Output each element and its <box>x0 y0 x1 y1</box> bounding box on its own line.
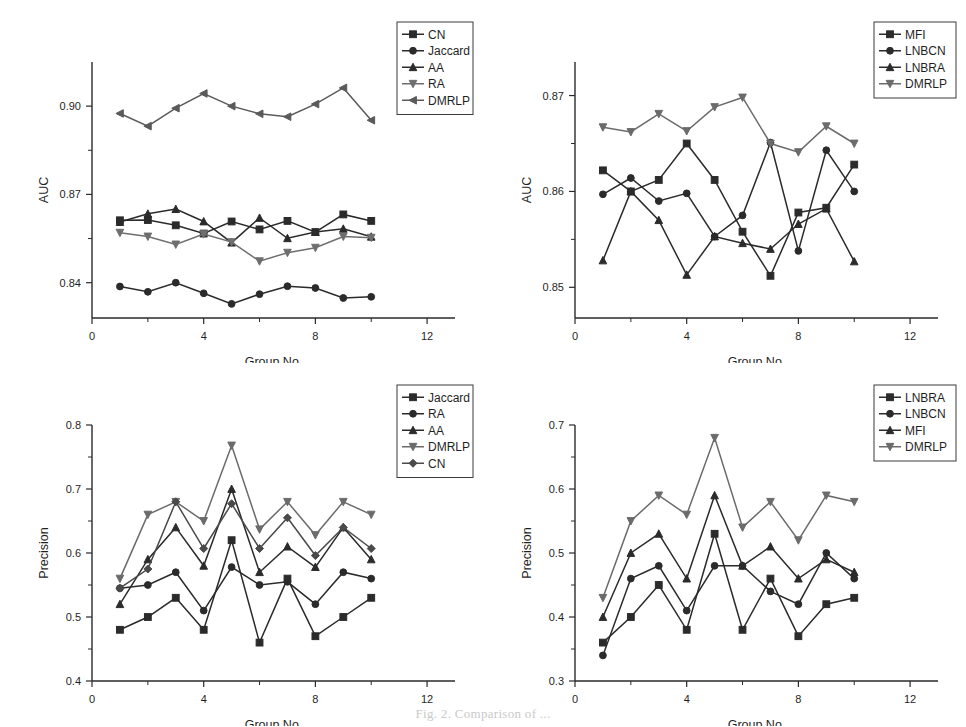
axes-group: 048120.840.870.90 <box>60 62 455 342</box>
data-point <box>256 258 264 265</box>
series-line <box>603 143 854 251</box>
data-point <box>340 614 347 621</box>
x-tick-label: 12 <box>904 693 916 705</box>
y-tick-label: 0.4 <box>549 611 564 623</box>
legend-label: CN <box>428 28 445 42</box>
data-point <box>683 607 690 614</box>
data-point <box>283 113 290 121</box>
data-point <box>655 562 662 569</box>
data-point <box>795 601 802 608</box>
x-tick-label: 4 <box>201 693 207 705</box>
y-tick-label: 0.85 <box>543 281 564 293</box>
data-point <box>655 110 663 117</box>
plot-area <box>599 434 858 658</box>
data-point <box>368 293 375 300</box>
data-point <box>795 209 802 216</box>
plot-area <box>116 442 375 646</box>
y-tick-label: 0.90 <box>60 100 81 112</box>
data-point <box>256 110 263 118</box>
data-point <box>144 614 151 621</box>
x-tick-label: 4 <box>684 693 690 705</box>
legend-label: Jaccard <box>428 44 470 58</box>
chart-svg-top-left: 048120.840.870.90Group No.AUCCNJaccardAA… <box>0 0 483 363</box>
data-point <box>172 279 179 286</box>
data-point <box>172 523 180 530</box>
data-point <box>228 485 236 492</box>
chart-svg-bottom-left: 048120.40.50.60.70.8Group No.PrecisionJa… <box>0 363 483 726</box>
data-point <box>340 295 347 302</box>
data-point <box>200 90 207 98</box>
data-point <box>200 290 207 297</box>
figure-caption: Fig. 2. Comparison of ... <box>0 706 966 722</box>
series-line <box>603 191 854 274</box>
data-point <box>739 626 746 633</box>
data-point <box>600 639 607 646</box>
data-point <box>683 626 690 633</box>
data-point <box>655 198 662 205</box>
data-point <box>172 594 179 601</box>
data-point <box>368 217 375 224</box>
data-point <box>851 161 858 168</box>
data-point <box>795 247 802 254</box>
legend-label: DMRLP <box>428 440 470 454</box>
series-dmrlp <box>599 94 858 156</box>
y-tick-label: 0.7 <box>549 419 564 431</box>
y-tick-label: 0.86 <box>543 185 564 197</box>
x-tick-label: 8 <box>795 330 801 342</box>
data-point <box>200 217 208 224</box>
data-point <box>600 652 607 659</box>
x-tick-label: 8 <box>795 693 801 705</box>
x-axis-title: Group No. <box>245 355 303 363</box>
data-point <box>627 614 634 621</box>
legend-label: LNBCN <box>905 44 946 58</box>
data-point <box>228 300 235 307</box>
legend: CNJaccardAARADMRLP <box>397 22 473 115</box>
data-point <box>256 526 264 533</box>
legend-label: DMRLP <box>428 94 470 108</box>
data-point <box>144 288 151 295</box>
chart-svg-top-right: 048120.850.860.87Group No.AUCMFILNBCNLNB… <box>483 0 966 363</box>
legend-label: MFI <box>905 28 926 42</box>
data-point <box>312 633 319 640</box>
legend-label: LNBCN <box>905 407 946 421</box>
data-point <box>228 442 236 449</box>
data-point <box>711 177 718 184</box>
data-point <box>823 147 830 154</box>
y-axis-title: AUC <box>37 177 51 203</box>
data-point <box>739 228 746 235</box>
data-point <box>256 639 263 646</box>
data-point <box>228 564 235 571</box>
x-tick-label: 8 <box>312 330 318 342</box>
data-point <box>256 291 263 298</box>
series-line <box>120 283 371 304</box>
data-point <box>683 511 691 518</box>
data-point <box>711 434 719 441</box>
series-ra <box>116 229 375 265</box>
data-point <box>367 511 375 518</box>
data-point <box>228 537 235 544</box>
y-tick-label: 0.5 <box>66 611 81 623</box>
y-axis-title: Precision <box>520 527 534 578</box>
data-point <box>339 84 346 92</box>
data-point <box>228 102 235 110</box>
data-point <box>284 578 291 585</box>
data-point <box>851 575 858 582</box>
data-point <box>850 568 858 575</box>
legend-label: LNBRA <box>905 391 945 405</box>
data-point <box>739 212 746 219</box>
y-tick-label: 0.6 <box>549 483 564 495</box>
x-tick-label: 4 <box>201 330 207 342</box>
data-point <box>850 498 858 505</box>
data-point <box>340 569 347 576</box>
data-point <box>116 575 124 582</box>
data-point <box>600 191 607 198</box>
data-point <box>683 128 691 135</box>
data-point <box>144 511 152 518</box>
series-line <box>120 445 371 578</box>
y-tick-label: 0.5 <box>549 547 564 559</box>
legend-marker <box>410 47 417 54</box>
legend-label: AA <box>428 424 444 438</box>
legend-label: AA <box>428 61 444 75</box>
legend-marker <box>887 31 894 38</box>
x-tick-label: 8 <box>312 693 318 705</box>
